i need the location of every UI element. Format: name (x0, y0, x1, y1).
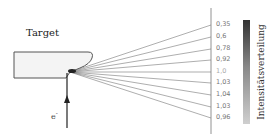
electron-charge: - (56, 109, 58, 116)
ray-fan (70, 25, 211, 118)
electron-label: e- (51, 109, 58, 121)
intensity-value: 0,92 (216, 56, 230, 63)
intensity-gradient-bar (243, 20, 250, 124)
intensity-value: 0,78 (216, 45, 230, 52)
intensity-value: 1,03 (216, 79, 230, 86)
target-label: Target (26, 27, 59, 38)
focal-spot (68, 69, 76, 73)
diagram-graphics (0, 0, 276, 139)
xray-intensity-diagram: Target e- 0,35 0,6 0,78 0,92 1,0 1,03 1,… (0, 0, 276, 139)
intensity-value: 0,35 (216, 21, 230, 28)
target-block (14, 52, 93, 78)
intensity-value: 1,04 (216, 91, 230, 98)
intensity-scale-label: Intensitätsverteilung (256, 24, 266, 120)
intensity-value: 1,0 (216, 68, 226, 75)
intensity-value: 0,96 (216, 114, 230, 121)
intensity-value: 0,6 (216, 33, 226, 40)
electron-arrow-icon (64, 95, 70, 103)
intensity-value: 1,03 (216, 103, 230, 110)
